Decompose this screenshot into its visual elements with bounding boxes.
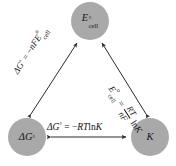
node-k-symbol: K [146, 132, 153, 143]
bottom-equals: = [64, 122, 69, 132]
node-k-label: K [146, 132, 153, 143]
bottom-k: K [96, 122, 102, 132]
node-ecell-subscript: cell [89, 23, 99, 29]
node-delta-g-symbol: ΔG [19, 132, 33, 143]
edge-label-bottom: ΔG° = −RTlnK [47, 123, 102, 133]
node-ecell-symbol: E [82, 13, 88, 24]
bottom-ln: ln [88, 122, 95, 132]
node-ecell: E°cell [71, 2, 109, 40]
node-delta-g-degree: ° [33, 135, 36, 142]
thermodynamic-triangle-diagram: E°cell ΔG° K ΔG° = −RTlnK ΔG° = −nFE°cel… [0, 0, 176, 166]
bottom-rt: RT [77, 122, 88, 132]
node-ecell-label: E°cell [82, 13, 98, 29]
node-delta-g: ΔG° [8, 118, 46, 156]
bottom-lhs-degree: ° [59, 122, 61, 128]
edge-line-left [31, 43, 77, 114]
bottom-lhs: ΔG [47, 122, 59, 132]
node-ecell-degree-sub: °cell [89, 16, 99, 29]
node-delta-g-label: ΔG° [19, 132, 35, 143]
